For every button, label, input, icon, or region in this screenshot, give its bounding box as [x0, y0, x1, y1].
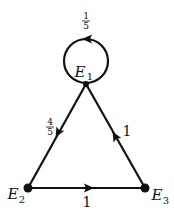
loop-weight-num: 1: [83, 11, 89, 21]
node-e3: [141, 184, 150, 193]
loop-weight-den: 5: [83, 21, 89, 31]
edge-weight-e2-e3: 1: [83, 194, 92, 210]
edge-weight-e3-e1: 1: [123, 123, 132, 139]
node-label-e2: E: [7, 185, 19, 203]
node-sub-e3: 3: [163, 195, 169, 206]
edge-weight-e1-e2-num: 4: [47, 117, 53, 127]
edge-weight-e1-e2-den: 5: [47, 127, 53, 137]
arrow-icon-e3-e1: [109, 129, 122, 142]
node-e2: [24, 184, 33, 193]
node-sub-e1: 1: [87, 71, 93, 82]
node-label-e3: E: [151, 186, 163, 204]
markov-chain-diagram: 1 5 E 1 4 5 1 1 E 2 E 3: [0, 0, 174, 215]
node-label-e1: E: [74, 63, 86, 81]
node-sub-e2: 2: [19, 194, 25, 205]
